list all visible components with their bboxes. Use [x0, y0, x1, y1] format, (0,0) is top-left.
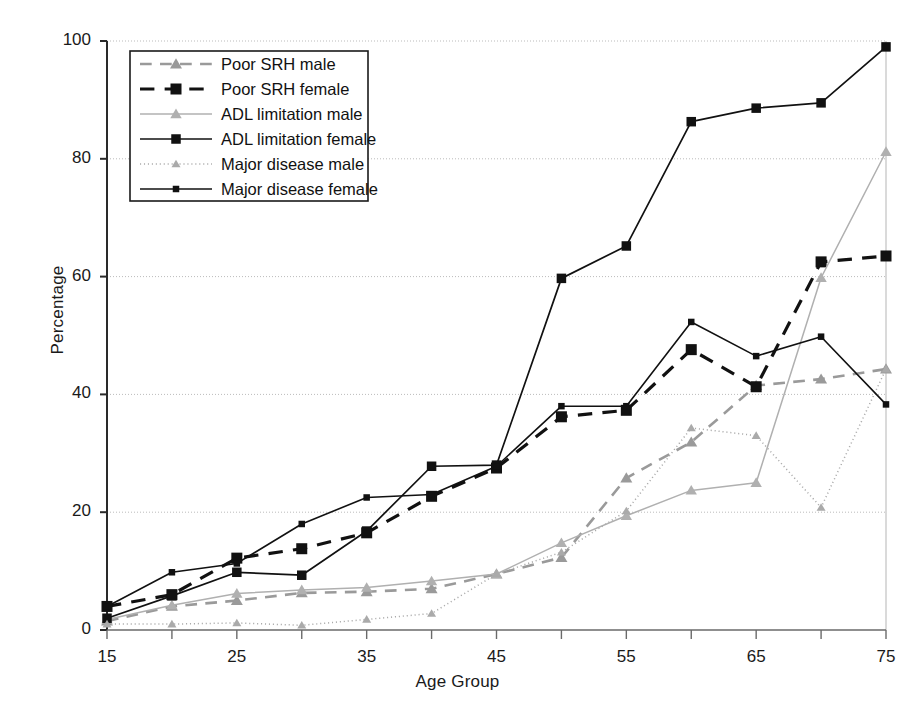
data-point-marker	[750, 477, 761, 487]
legend-square-marker-icon	[171, 134, 181, 144]
x-axis-tick-label: 15	[77, 647, 137, 667]
data-point-marker	[232, 568, 242, 578]
data-point-marker	[299, 521, 306, 528]
series-line	[107, 369, 886, 625]
series-line	[107, 152, 886, 620]
data-point-marker	[686, 344, 697, 355]
data-point-marker	[362, 615, 371, 623]
series-adl-limitation-male	[101, 146, 891, 623]
legend-box	[130, 51, 368, 201]
data-point-marker	[751, 381, 762, 392]
data-point-marker	[622, 507, 631, 515]
legend-square-marker-icon	[173, 186, 180, 193]
data-point-marker	[818, 333, 825, 340]
data-point-marker	[816, 256, 827, 267]
data-point-marker	[753, 353, 760, 360]
y-axis-tick-label: 20	[31, 501, 91, 521]
y-axis-label-wrapper: Percentage	[48, 230, 68, 390]
x-axis-tick-label: 65	[726, 647, 786, 667]
y-axis-tick-label: 60	[31, 266, 91, 286]
data-point-marker	[815, 272, 826, 282]
legend-label: Major disease female	[221, 180, 378, 198]
series-major-disease-female	[104, 319, 890, 610]
data-point-marker	[620, 472, 632, 482]
data-point-marker	[687, 117, 697, 127]
x-axis-tick-label: 75	[856, 647, 915, 667]
chart-container: Poor SRH malePoor SRH femaleADL limitati…	[0, 0, 915, 712]
data-point-marker	[493, 463, 500, 470]
data-point-marker	[881, 42, 891, 52]
legend: Poor SRH malePoor SRH femaleADL limitati…	[130, 51, 378, 201]
series-line	[107, 369, 886, 621]
data-point-marker	[363, 494, 370, 501]
data-point-marker	[880, 146, 891, 156]
data-point-marker	[167, 591, 177, 601]
y-axis-tick-label: 100	[31, 30, 91, 50]
x-axis-tick-label: 45	[467, 647, 527, 667]
line-chart-plot: Poor SRH malePoor SRH femaleADL limitati…	[0, 0, 915, 712]
x-axis-tick-label: 25	[207, 647, 267, 667]
x-axis-tick-label: 55	[596, 647, 656, 667]
x-axis-label-wrapper: Age Group	[0, 672, 915, 692]
data-point-marker	[557, 274, 567, 284]
data-point-marker	[687, 424, 696, 432]
y-axis-tick-label: 80	[31, 148, 91, 168]
legend-label: Poor SRH male	[221, 55, 336, 73]
data-point-marker	[752, 431, 761, 439]
data-point-marker	[297, 570, 307, 580]
y-axis-tick-label: 40	[31, 383, 91, 403]
data-point-marker	[169, 569, 176, 576]
series-line	[107, 256, 886, 606]
data-point-marker	[688, 319, 695, 326]
data-point-marker	[427, 462, 437, 472]
x-axis-tick-label: 35	[337, 647, 397, 667]
series-major-disease-male	[103, 365, 891, 629]
legend-label: Poor SRH female	[221, 80, 349, 98]
legend-square-marker-icon	[171, 84, 182, 95]
data-point-marker	[234, 560, 241, 567]
legend-label: ADL limitation male	[221, 105, 363, 123]
data-point-marker	[296, 543, 307, 554]
data-point-marker	[623, 403, 630, 410]
y-axis-tick-label: 0	[31, 619, 91, 639]
data-point-marker	[428, 491, 435, 498]
data-point-marker	[427, 609, 436, 617]
series-poor-srh-male	[101, 363, 892, 625]
legend-label: Major disease male	[221, 155, 364, 173]
data-point-marker	[816, 98, 826, 108]
data-point-marker	[881, 250, 892, 261]
data-point-marker	[751, 103, 761, 113]
legend-label: ADL limitation female	[221, 130, 376, 148]
data-point-marker	[558, 403, 565, 410]
data-point-marker	[104, 603, 111, 610]
data-point-marker	[556, 537, 567, 547]
data-point-marker	[556, 411, 567, 422]
data-point-marker	[817, 503, 826, 511]
data-point-marker	[622, 241, 632, 251]
data-point-marker	[362, 526, 372, 536]
data-point-marker	[883, 401, 890, 408]
x-axis-label: Age Group	[415, 672, 499, 691]
